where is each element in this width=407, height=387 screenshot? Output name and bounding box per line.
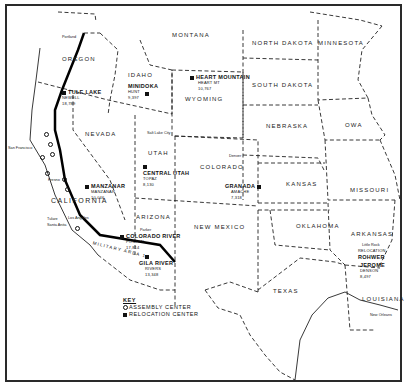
camp-heart-mountain: HEART MOUNTAIN HEART MT 10,767 [190, 74, 250, 92]
assembly-center-circle-icon [40, 155, 45, 160]
city-los-angeles: Los Angeles [68, 216, 89, 220]
legend-item-assembly-center: ASSEMBLY CENTER [123, 304, 199, 311]
state-label-north-dakota: NORTH DAKOTA [252, 40, 314, 46]
state-label-louisiana: LOUISIANA [362, 296, 405, 302]
city-new-orleans: New Orleans [370, 313, 392, 317]
state-label-new-mexico: NEW MEXICO [194, 224, 245, 230]
camp-tule-lake: TULE LAKE NEWELL 18,789 [62, 89, 102, 107]
assembly-center-circle-icon [48, 142, 53, 147]
city-portland: Portland [62, 35, 76, 39]
relocation-center-square-icon [190, 76, 194, 80]
relocation-center-square-icon [123, 313, 127, 317]
state-label-iowa: OWA [345, 122, 363, 128]
camp-colorado-river: COLORADO RIVER POSTON 17,814 [120, 233, 181, 251]
city-denver: Denver [229, 154, 241, 158]
state-label-south-dakota: SOUTH DAKOTA [252, 82, 313, 88]
city-salt-lake-city: Salt Lake City [147, 131, 170, 135]
state-label-texas: TEXAS [273, 288, 299, 294]
relocation-center-square-icon [62, 91, 66, 95]
assembly-center-circle-icon [45, 171, 50, 176]
state-label-montana: MONTANA [172, 32, 210, 38]
map-legend: KEY ASSEMBLY CENTER RELOCATION CENTER [123, 297, 199, 318]
state-label-nebraska: NEBRASKA [266, 123, 308, 129]
city-san-francisco: San Francisco [8, 146, 32, 150]
assembly-center-circle-icon [123, 305, 128, 310]
relocation-center-square-icon [143, 165, 147, 169]
state-label-arkansas: ARKANSAS [351, 231, 393, 237]
relocation-center-square-icon [120, 235, 124, 239]
state-label-nevada: NEVADA [85, 131, 116, 137]
camp-minidoka: MINIDOKA HUNT 9,397 [128, 83, 158, 101]
camp-jerome: JEROME DENSON 8,497 [360, 262, 385, 280]
state-label-oklahoma: OKLAHOMA [296, 223, 340, 229]
camp-granada: GRANADA AMACHE 7,318 [225, 183, 263, 201]
relocation-center-square-icon [257, 185, 261, 189]
city-tulare: Tulare [47, 217, 58, 221]
camp-manzanar: MANZANAR MANZANAR 10,046 [85, 183, 125, 201]
state-label-utah: UTAH [148, 150, 169, 156]
assembly-center-circle-icon [75, 226, 80, 231]
assembly-center-circle-icon [65, 187, 70, 192]
state-label-missouri: MISSOURI [350, 187, 389, 193]
city-fresno: Fresno [48, 178, 60, 182]
camp-central-utah: CENTRAL UTAH TOPAZ 8,130 [143, 165, 189, 188]
legend-title: KEY [123, 297, 199, 304]
state-label-arizona: ARIZONA [136, 214, 171, 220]
relocation-center-square-icon [85, 185, 89, 189]
assembly-center-circle-icon [44, 132, 49, 137]
state-label-oregon: OREGON [62, 56, 96, 62]
state-label-idaho: IDAHO [128, 72, 153, 78]
assembly-center-circle-icon [50, 152, 55, 157]
city-little-rock: Little Rock [362, 243, 380, 247]
state-label-wyoming: WYOMING [185, 96, 223, 102]
city-parker: Parker [140, 228, 151, 232]
city-santa-anita: Santa Anita [47, 223, 66, 227]
minidoka-square-icon [145, 92, 149, 96]
state-label-colorado: COLORADO [200, 164, 244, 170]
state-label-kansas: KANSAS [286, 181, 318, 187]
camp-rohwer: RELOCATION ROHWER [358, 248, 386, 260]
assembly-center-circle-icon [62, 177, 67, 182]
state-label-minnesota: MINNESOTA [318, 40, 364, 46]
legend-item-relocation-center: RELOCATION CENTER [123, 311, 199, 318]
